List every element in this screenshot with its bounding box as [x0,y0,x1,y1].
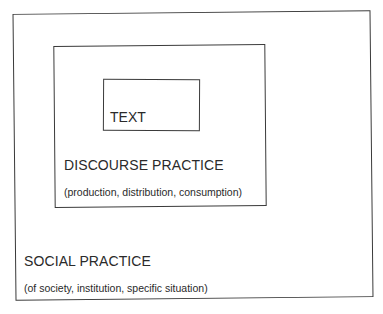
social-practice-title: SOCIAL PRACTICE [24,253,151,269]
discourse-practice-subtitle: (production, distribution, consumption) [64,186,242,198]
discourse-practice-title: DISCOURSE PRACTICE [64,157,224,173]
text-box-label: TEXT [110,109,146,125]
social-practice-subtitle: (of society, institution, specific situa… [24,282,208,294]
